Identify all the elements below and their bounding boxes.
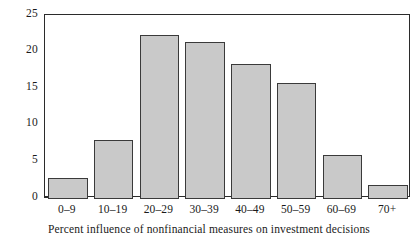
x-axis-tick-label: 20–29 [136,203,182,215]
y-axis-tick-label: 20 [4,44,38,56]
x-axis-tick-label: 60–69 [319,203,365,215]
x-axis-title: Percent influence of nonfinancial measur… [0,223,418,236]
x-axis-tick-label: 40–49 [227,203,273,215]
plot-area [44,14,410,197]
y-axis-tick-label-wrap: 10 [0,117,38,129]
bar [368,185,407,200]
bar [48,178,87,200]
y-axis-tick-label: 25 [4,8,38,20]
y-axis-tick-label: 5 [4,154,38,166]
bar [231,64,270,199]
bar [277,83,316,199]
y-axis-tick-label-wrap: 0 [0,191,38,203]
bar [140,35,179,200]
x-axis-tick-label: 50–59 [273,203,319,215]
y-axis-tick-label: 10 [4,117,38,129]
y-axis-tick-label: 15 [4,81,38,93]
bar [185,42,224,199]
x-axis-tick-label: 0–9 [44,203,90,215]
x-axis-tick-label: 70+ [364,203,410,215]
bar [94,140,133,199]
y-axis-tick-label-wrap: 5 [0,154,38,166]
y-axis-tick-label-wrap: 25 [0,8,38,20]
histogram-figure: 0510152025 0–910–1920–2930–3940–4950–596… [0,0,418,245]
x-axis-tick-label: 30–39 [181,203,227,215]
x-axis-tick-label: 10–19 [90,203,136,215]
y-axis-tick-label-wrap: 15 [0,81,38,93]
y-axis-tick-label-wrap: 20 [0,44,38,56]
y-axis-tick-label: 0 [4,191,38,203]
bar [323,155,362,200]
